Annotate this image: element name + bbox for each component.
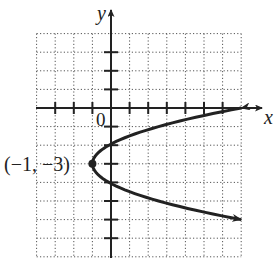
x-axis-label: x — [263, 106, 273, 128]
y-axis-label: y — [95, 2, 106, 25]
vertex-point — [88, 160, 96, 168]
origin-label: 0 — [96, 109, 106, 130]
grid — [37, 34, 242, 257]
vertex-annotation: (−1, −3) — [4, 153, 70, 176]
parabola-graph: y x 0 (−1, −3) — [0, 0, 280, 261]
